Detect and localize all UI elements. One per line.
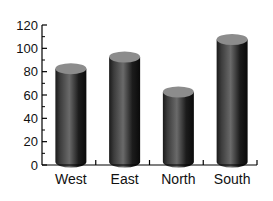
bar-south: [217, 34, 248, 168]
bar-west: [55, 63, 86, 167]
x-tick-label: East: [111, 171, 139, 187]
x-tick-label: West: [55, 171, 87, 187]
y-tick-label: 20: [24, 134, 38, 149]
y-tick-label: 60: [24, 88, 38, 103]
y-tick-label: 40: [24, 111, 38, 126]
y-tick-label: 80: [24, 64, 38, 79]
chart-container: 020406080100120 WestEastNorthSouth: [0, 0, 273, 201]
y-axis: 020406080100120: [16, 18, 47, 173]
bar-east: [109, 52, 140, 168]
y-tick-label: 100: [16, 41, 38, 56]
y-tick-label: 0: [31, 158, 38, 173]
bar-north: [163, 87, 194, 168]
cylinder-bar-chart: 020406080100120 WestEastNorthSouth: [0, 0, 273, 201]
bars: [55, 34, 247, 168]
y-tick-label: 120: [16, 18, 38, 33]
x-tick-label: North: [161, 171, 195, 187]
x-tick-label: South: [214, 171, 251, 187]
